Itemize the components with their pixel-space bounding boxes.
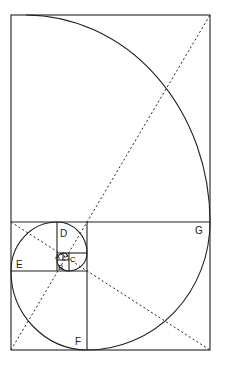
diagonal-main	[11, 15, 210, 350]
label-c: C	[70, 255, 76, 264]
label-b: B	[58, 263, 63, 272]
label-a: A	[55, 253, 60, 260]
label-d: D	[60, 228, 67, 239]
golden-spiral-diagram: G D E F C B A 1	[0, 0, 225, 369]
label-g: G	[195, 225, 203, 236]
label-e: E	[16, 259, 23, 270]
diagonal-secondary	[11, 222, 210, 350]
label-f: F	[75, 336, 81, 347]
